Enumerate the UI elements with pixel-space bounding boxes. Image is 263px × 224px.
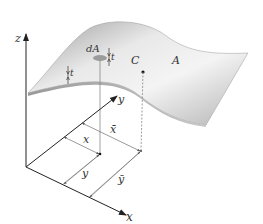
- area-label: A: [171, 54, 180, 67]
- y-axis: [26, 96, 117, 167]
- x-bar-dim-label: x̄: [110, 123, 117, 136]
- x-axis-label: x: [126, 210, 133, 224]
- x-dim-label: x: [83, 133, 90, 146]
- x-dimension: [64, 137, 99, 154]
- dA-label: dA: [86, 43, 100, 54]
- y-bar-dimension: [90, 152, 140, 197]
- y-axis-label: y: [117, 93, 125, 106]
- thickness-element-label: t: [111, 52, 115, 62]
- C-floor-point: [140, 150, 142, 152]
- centroid-label: C: [131, 54, 140, 67]
- y-bar-dim-label: ȳ: [117, 173, 125, 186]
- shell-centroid-diagram: z y x dA t t C A x x̄ y ȳ: [0, 0, 263, 224]
- curved-surface: [28, 22, 248, 127]
- thickness-left-label: t: [70, 68, 74, 78]
- y-dim-label: y: [81, 167, 89, 180]
- dA-floor-point: [99, 153, 102, 156]
- z-axis-label: z: [14, 32, 21, 45]
